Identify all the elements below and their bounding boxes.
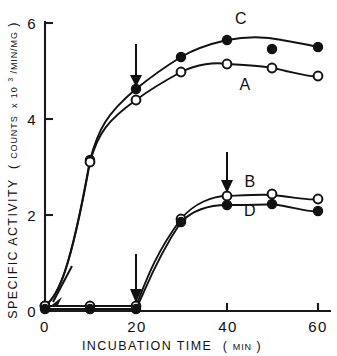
x-axis-title-main: INCUBATION TIME: [82, 339, 212, 353]
x-tick-label-40: 40: [218, 318, 238, 335]
series-d-point-60: [313, 206, 322, 215]
series-c-point-50: [267, 44, 276, 53]
arrow-upper-20min: [130, 44, 142, 87]
arrow-lower-40min: [221, 152, 233, 193]
y-axis-title: SPECIFIC ACTIVITY ( COUNTS x 10 3 /MIN/M…: [0, 21, 20, 319]
y-axis-title-paren-open: (: [6, 163, 20, 169]
x-axis-title: INCUBATION TIME ( MIN ): [82, 336, 262, 353]
x-tick-label-20: 20: [127, 318, 147, 335]
y-axis-ticks: [45, 23, 53, 311]
series-c-line: [45, 37, 318, 306]
series-a-point-50: [268, 64, 277, 73]
y-axis-title-base: 10: [9, 86, 19, 98]
y-tick-label-4: 4: [27, 111, 37, 128]
x-tick-label-0: 0: [40, 318, 50, 335]
y-axis-title-times: x: [9, 103, 19, 108]
series-b-label: B: [244, 173, 255, 190]
series-d-point-50: [267, 199, 276, 208]
series-b-line: [45, 195, 318, 306]
y-tick-label-6: 6: [27, 15, 37, 32]
series-a-point-20: [132, 96, 141, 105]
series-a-group: A: [41, 60, 323, 311]
y-axis-tick-labels: 0 2 4 6: [27, 15, 37, 320]
series-c-point-40: [222, 35, 231, 44]
series-b-point-60: [314, 195, 323, 204]
series-c-group: C: [40, 10, 322, 311]
figure-container: 0 20 40 60 0 2 4 6 SPECIFIC ACTIVITY ( C…: [0, 0, 337, 356]
series-d-label: D: [244, 202, 256, 219]
y-tick-label-0: 0: [27, 303, 37, 320]
specific-activity-vs-incubation-time-chart: 0 20 40 60 0 2 4 6 SPECIFIC ACTIVITY ( C…: [0, 0, 337, 356]
series-a-point-10: [86, 158, 95, 167]
x-axis-title-paren-close: ): [256, 339, 262, 353]
y-axis-title-exponent: 3: [7, 78, 14, 82]
series-b-point-50: [268, 190, 277, 199]
y-axis-title-units: /MIN/MG: [9, 31, 19, 73]
series-a-point-40: [223, 60, 232, 69]
x-axis-title-paren-open: (: [223, 339, 229, 353]
series-a-point-30: [177, 68, 186, 77]
series-d-point-30: [176, 217, 185, 226]
series-c-point-60: [313, 42, 322, 51]
series-d-point-0: [40, 304, 49, 313]
arrow-origin-diagonal: [48, 266, 72, 308]
series-a-line: [45, 63, 318, 306]
series-a-label: A: [239, 76, 250, 93]
y-tick-label-2: 2: [27, 207, 37, 224]
x-axis-title-text: INCUBATION TIME ( MIN ): [82, 336, 262, 353]
x-tick-label-60: 60: [308, 318, 328, 335]
series-d-point-40: [222, 200, 231, 209]
series-d-point-20: [131, 304, 140, 313]
series-d-point-10: [85, 304, 94, 313]
arrow-lower-40min-head: [221, 180, 233, 193]
y-axis-title-counts: COUNTS: [9, 115, 19, 158]
x-axis-title-unit: MIN: [233, 342, 252, 352]
x-axis-tick-labels: 0 20 40 60: [40, 318, 328, 335]
y-axis-title-paren-close: ): [6, 21, 20, 27]
series-c-point-30: [176, 52, 185, 61]
series-a-point-60: [314, 72, 323, 81]
y-axis-title-main: SPECIFIC ACTIVITY: [6, 178, 20, 319]
series-c-label: C: [235, 10, 247, 27]
y-axis-title-text: SPECIFIC ACTIVITY ( COUNTS x 10 3 /MIN/M…: [0, 21, 20, 319]
